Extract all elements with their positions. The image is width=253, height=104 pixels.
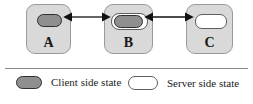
connector-b-c-bidirectional-arrow [150,12,188,22]
node-a-label: A [27,35,70,50]
legend-label-client: Client side state [51,76,121,89]
server-state-swatch-icon [128,76,158,90]
node-b-server-state-capsule [111,13,148,30]
node-a-client-state-capsule [37,14,62,27]
node-a: A [26,4,71,54]
legend-divider [5,68,248,69]
legend-item-client-side-state: Client side state [16,76,121,89]
node-c-label: C [187,35,232,50]
node-c: C [186,4,233,54]
legend-label-server: Server side state [167,77,239,90]
connector-a-b-bidirectional-arrow [69,12,105,22]
client-state-swatch-icon [16,76,42,89]
diagram-figure: A B C Client side state [0,0,253,104]
node-b: B [104,4,153,54]
node-b-label: B [105,35,152,50]
node-b-client-state-capsule [114,15,143,28]
legend-item-server-side-state: Server side state [128,76,239,90]
legend: Client side state Server side state [0,76,253,98]
node-c-server-state-capsule [195,14,227,29]
